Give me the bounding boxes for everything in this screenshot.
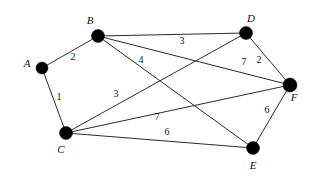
edge-weight-c-f: 7 [155,112,160,122]
edge-weight-b-d: 3 [180,36,185,46]
edge-weight-a-c: 1 [57,92,62,102]
node-label-c: C [57,144,64,155]
graph-edge-b-e [98,36,253,148]
graph-node-b [92,30,105,43]
graph-edge-d-f [246,33,290,85]
node-label-f: F [291,92,298,103]
edge-weight-b-e: 4 [139,55,144,65]
edge-weight-a-b: 2 [71,52,76,62]
graph-edge-c-e [66,133,253,148]
graph-edge-b-d [98,33,246,36]
graph-edge-a-c [42,68,66,133]
weighted-graph-figure: 2134737626ABCDEF [0,0,314,181]
node-label-a: A [24,58,31,69]
node-label-d: D [247,13,255,24]
graph-edge-e-f [253,85,290,148]
graph-node-c [60,127,73,140]
graph-node-d [240,27,253,40]
edge-weight-c-e: 6 [165,127,170,137]
graph-canvas [0,0,314,181]
edge-weight-b-f: 7 [242,57,247,67]
edge-weight-c-d: 3 [114,89,119,99]
graph-node-a [36,62,48,74]
edge-weight-e-f: 6 [265,105,270,115]
edge-weight-d-f: 2 [257,55,262,65]
graph-node-e [247,142,260,155]
node-label-e: E [250,160,257,171]
graph-edge-c-f [66,85,290,133]
node-label-b: B [87,15,94,26]
